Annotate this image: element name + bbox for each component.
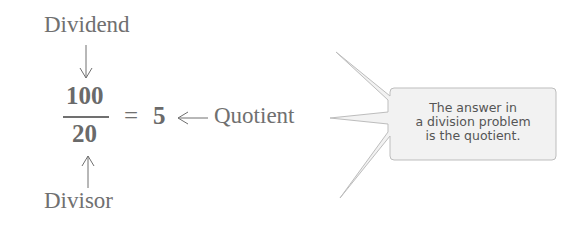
dividend-arrow-icon: [80, 45, 92, 78]
equals-sign: =: [124, 102, 138, 130]
divisor-label: Divisor: [44, 188, 113, 214]
divisor-arrow-icon: [82, 156, 94, 188]
fraction-bar: [63, 116, 109, 118]
callout-line-1: The answer in: [388, 101, 558, 115]
callout-text: The answer in a division problem is the …: [388, 101, 558, 143]
numerator: 100: [66, 82, 104, 110]
quotient-arrow-icon: [178, 112, 208, 124]
callout-line-3: is the quotient.: [388, 129, 558, 143]
quotient-value: 5: [153, 102, 166, 130]
denominator: 20: [72, 120, 97, 148]
division-terms-diagram: Dividend 100 20 = 5 Quotient Divisor The…: [0, 0, 584, 229]
dividend-label: Dividend: [44, 12, 130, 38]
callout-line-2: a division problem: [388, 115, 558, 129]
quotient-label: Quotient: [214, 103, 295, 129]
